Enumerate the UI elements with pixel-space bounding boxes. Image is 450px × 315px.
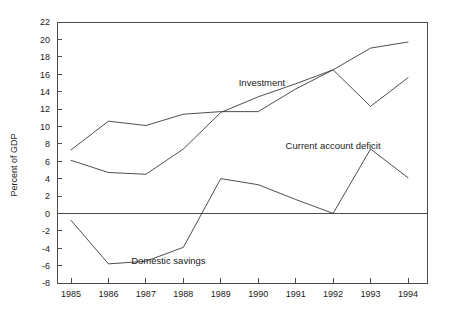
- y-tick-label: -4: [42, 244, 50, 254]
- y-tick-label: 22: [40, 17, 50, 27]
- x-tick-label: 1988: [173, 289, 193, 299]
- y-tick-label: 12: [40, 104, 50, 114]
- y-axis-tick-labels: -8-6-4-20246810121416182022: [40, 17, 50, 288]
- x-tick-label: 1986: [98, 289, 118, 299]
- y-tick-label: -8: [42, 278, 50, 288]
- x-axis-tick-marks: [71, 278, 408, 283]
- series-annotations: InvestmentDomestic savingsCurrent accoun…: [131, 77, 381, 265]
- line-chart: -8-6-4-20246810121416182022 198519861987…: [0, 0, 450, 315]
- series-label-domestic-savings: Domestic savings: [131, 255, 206, 266]
- y-tick-label: 2: [45, 191, 50, 201]
- series-label-investment: Investment: [239, 77, 286, 88]
- x-tick-label: 1993: [361, 289, 381, 299]
- y-tick-label: -2: [42, 226, 50, 236]
- y-axis-title: Percent of GDP: [9, 133, 19, 196]
- chart-container: -8-6-4-20246810121416182022 198519861987…: [0, 0, 450, 315]
- x-tick-label: 1992: [323, 289, 343, 299]
- x-tick-label: 1987: [136, 289, 156, 299]
- y-tick-label: 16: [40, 70, 50, 80]
- data-series-group: [71, 42, 408, 264]
- x-tick-label: 1985: [61, 289, 81, 299]
- y-tick-label: 6: [45, 157, 50, 167]
- y-tick-label: 20: [40, 35, 50, 45]
- y-tick-label: -6: [42, 261, 50, 271]
- chart-axes: [57, 22, 427, 283]
- series-line-investment: [71, 42, 408, 150]
- y-tick-label: 14: [40, 87, 50, 97]
- x-tick-label: 1989: [211, 289, 231, 299]
- y-axis-tick-marks: [57, 22, 62, 283]
- series-label-current-account-deficit: Current account deficit: [286, 140, 381, 151]
- series-line-current-account-deficit: [71, 149, 408, 264]
- x-tick-label: 1990: [248, 289, 268, 299]
- y-tick-label: 4: [45, 174, 50, 184]
- x-axis-tick-labels: 1985198619871988198919901991199219931994: [61, 289, 418, 299]
- x-tick-label: 1994: [398, 289, 418, 299]
- x-tick-label: 1991: [286, 289, 306, 299]
- axis-frame: [57, 22, 427, 283]
- y-tick-label: 10: [40, 122, 50, 132]
- y-tick-label: 8: [45, 139, 50, 149]
- y-tick-label: 0: [45, 209, 50, 219]
- y-tick-label: 18: [40, 52, 50, 62]
